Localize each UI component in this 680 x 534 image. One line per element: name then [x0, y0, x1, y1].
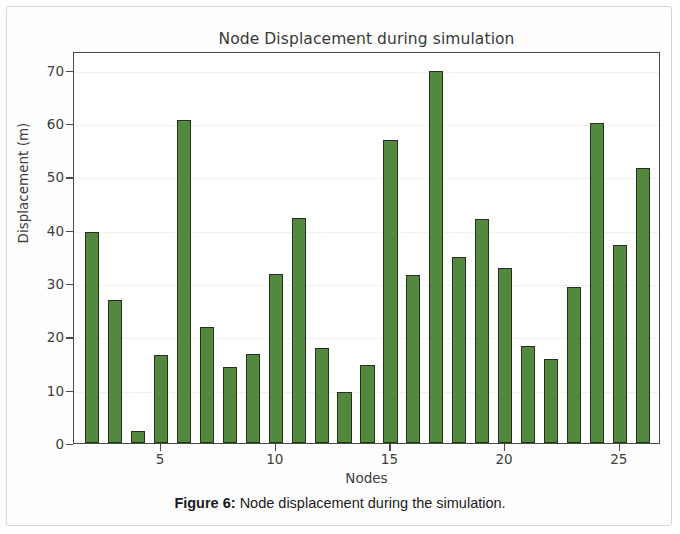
plot-area: [73, 52, 660, 444]
bar: [315, 348, 329, 443]
bar-series: [74, 53, 659, 443]
bar: [337, 392, 351, 443]
figure-container: Node Displacement during simulation Disp…: [0, 0, 680, 534]
y-tick-label: 10: [47, 383, 64, 399]
y-tick-label: 30: [47, 276, 64, 292]
y-axis-tick-labels: 010203040506070: [26, 52, 64, 444]
bar: [85, 232, 99, 443]
x-tick-mark: [275, 444, 276, 451]
bar: [223, 367, 237, 443]
bar: [590, 123, 604, 443]
y-tick-label: 60: [47, 116, 64, 132]
x-tick-label: 25: [610, 451, 627, 467]
x-axis-tick-labels: 510152025: [73, 451, 660, 469]
figure-page: Node Displacement during simulation Disp…: [0, 0, 680, 534]
x-tick-label: 15: [381, 451, 398, 467]
bar: [613, 245, 627, 443]
y-tick-label: 50: [47, 169, 64, 185]
bar: [475, 219, 489, 443]
x-tick-mark: [504, 444, 505, 451]
x-tick-label: 20: [495, 451, 512, 467]
chart-title: Node Displacement during simulation: [73, 30, 660, 48]
figure-caption-text: Node displacement during the simulation.: [240, 495, 506, 511]
bar: [567, 287, 581, 443]
x-tick-label: 5: [156, 451, 165, 467]
x-tick-label: 10: [266, 451, 283, 467]
x-tick-mark: [160, 444, 161, 451]
y-tick-mark: [66, 71, 73, 72]
bar: [406, 275, 420, 443]
y-tick-mark: [66, 177, 73, 178]
x-axis-title: Nodes: [73, 470, 660, 486]
bar: [200, 327, 214, 443]
bar: [521, 346, 535, 443]
y-tick-mark: [66, 124, 73, 125]
bar: [108, 300, 122, 443]
bar: [636, 168, 650, 443]
figure-caption: Figure 6: Node displacement during the s…: [40, 495, 640, 511]
bar: [154, 355, 168, 443]
bar: [498, 268, 512, 443]
y-tick-label: 70: [47, 63, 64, 79]
x-axis-tick-marks: [73, 444, 660, 451]
y-tick-mark: [66, 444, 73, 445]
bar: [246, 354, 260, 443]
bar: [177, 120, 191, 443]
x-tick-mark: [389, 444, 390, 451]
bar: [544, 359, 558, 443]
bar: [383, 140, 397, 443]
bar: [269, 274, 283, 443]
figure-caption-label: Figure 6:: [174, 495, 235, 511]
y-tick-label: 0: [55, 436, 64, 452]
x-tick-mark: [619, 444, 620, 451]
y-tick-mark: [66, 337, 73, 338]
bar: [360, 365, 374, 443]
bar: [429, 71, 443, 443]
bar: [292, 218, 306, 443]
y-tick-mark: [66, 231, 73, 232]
y-tick-label: 20: [47, 329, 64, 345]
y-axis-tick-marks: [66, 52, 73, 444]
y-tick-mark: [66, 284, 73, 285]
y-tick-mark: [66, 391, 73, 392]
y-tick-label: 40: [47, 223, 64, 239]
bar: [131, 431, 145, 443]
bar: [452, 257, 466, 443]
